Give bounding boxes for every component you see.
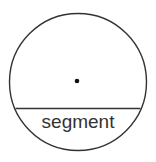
segment-diagram: segment (0, 0, 156, 162)
center-dot (75, 79, 80, 84)
segment-label: segment (42, 111, 116, 132)
